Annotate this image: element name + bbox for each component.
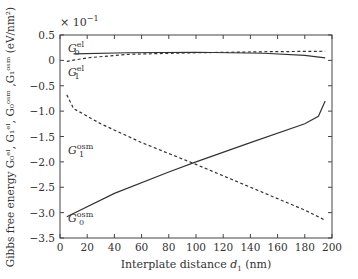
- x-tick-label: 140: [240, 241, 260, 253]
- x-tick-label: 60: [135, 241, 148, 253]
- annotation-G1el: Gel1: [68, 64, 85, 81]
- y-tick-label: 0.5: [38, 29, 55, 41]
- x-tick-label: 160: [268, 241, 288, 253]
- curves: [67, 51, 325, 220]
- plot-frame: [60, 35, 332, 238]
- annotation-G1osm: Gosm1: [68, 142, 94, 159]
- x-tick-label: 0: [57, 241, 64, 253]
- x-tick-label: 20: [81, 241, 94, 253]
- y-multiplier: × 10−1: [60, 14, 99, 29]
- curve-G1osm: [67, 95, 325, 220]
- y-tick-label: 0: [48, 54, 55, 66]
- y-tick-label: −2.5: [30, 181, 56, 193]
- y-tick-label: −3.5: [30, 232, 56, 244]
- y-tick-label: −0.5: [30, 80, 56, 92]
- x-tick-label: 40: [108, 241, 121, 253]
- y-axis-label: Gibbs free energy G₀ᵉˡ, G₁ᵉˡ, G₀ᵒˢᵐ ,G₁ᵒ…: [4, 7, 16, 267]
- x-tick-label: 200: [322, 241, 342, 253]
- x-tick-label: 180: [295, 241, 315, 253]
- curve-G0osm: [67, 101, 325, 217]
- x-tick-label: 80: [162, 241, 175, 253]
- x-axis-label: Interplate distance d1 (nm): [121, 258, 272, 273]
- y-tick-label: −3.0: [30, 207, 56, 219]
- plot-svg: 0204060801001201401601802000.50−0.5−1.0−…: [0, 0, 358, 279]
- annotation-G0el: Gel0: [68, 40, 85, 57]
- annotations: Gel0Gel1Gosm1Gosm0: [68, 40, 94, 227]
- y-tick-label: −1.5: [30, 131, 56, 143]
- y-tick-label: −2.0: [30, 156, 56, 168]
- annotation-G0osm: Gosm0: [68, 210, 94, 227]
- y-tick-label: −1.0: [30, 105, 56, 117]
- x-tick-label: 120: [213, 241, 233, 253]
- chart: 0204060801001201401601802000.50−0.5−1.0−…: [0, 0, 358, 279]
- x-tick-label: 100: [186, 241, 206, 253]
